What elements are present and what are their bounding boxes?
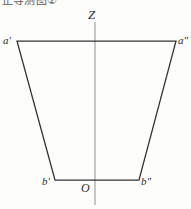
label-origin: O: [81, 182, 90, 194]
label-b-prime: b': [42, 176, 50, 187]
diagram-canvas: [0, 0, 191, 209]
technical-drawing-figure: 正等测图② a' a" b' b" Z O: [0, 0, 191, 209]
label-a-prime: a': [3, 35, 11, 46]
label-b-double-prime: b": [141, 176, 151, 187]
label-a-double-prime: a": [178, 35, 188, 46]
label-z-axis: Z: [88, 8, 95, 21]
trapezoid-outline: [17, 41, 176, 180]
